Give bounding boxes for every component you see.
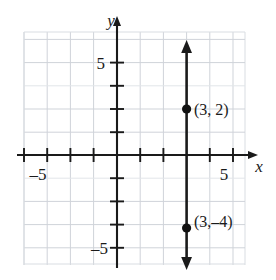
point-label-3-2: (3, 2) xyxy=(194,101,229,119)
y-tick-label-5: 5 xyxy=(97,54,106,73)
graph-svg: y x –5 5 5 –5 (3, 2) (3,–4) xyxy=(0,0,276,280)
y-axis xyxy=(110,16,124,268)
grid-lines xyxy=(24,32,245,265)
y-axis-label: y xyxy=(105,11,115,30)
y-tick-label-neg5: –5 xyxy=(90,239,108,258)
x-axis xyxy=(17,148,258,162)
grid-lines-vertical xyxy=(24,32,245,265)
plotted-point-3-neg4 xyxy=(182,223,191,232)
x-tick-label-neg5: –5 xyxy=(29,165,47,184)
plotted-point-3-2 xyxy=(182,104,191,113)
point-label-3-neg4: (3,–4) xyxy=(194,213,233,231)
x-tick-label-5: 5 xyxy=(220,165,229,184)
coordinate-plane-figure: y x –5 5 5 –5 (3, 2) (3,–4) xyxy=(0,0,276,280)
x-axis-label: x xyxy=(254,157,263,176)
line-arrowhead-up xyxy=(181,40,192,53)
grid-lines-horizontal xyxy=(24,39,245,264)
